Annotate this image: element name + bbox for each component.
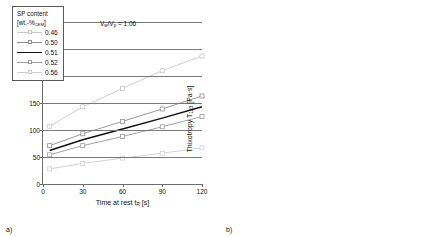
- data-point-marker: [48, 144, 52, 148]
- legend-item-0.50: 0.50: [17, 37, 58, 47]
- legend-item-0.52: 0.52: [17, 57, 58, 67]
- legend-item-0.46: 0.46: [17, 27, 58, 37]
- y-axis-tick-label: 150: [29, 100, 40, 107]
- data-point-marker: [121, 119, 125, 123]
- two-panel-figure: 0501001502002503000306090120Time at rest…: [0, 0, 447, 237]
- data-point-marker: [81, 132, 85, 136]
- legend-swatch-0.52: [17, 57, 42, 67]
- data-point-marker: [121, 134, 125, 138]
- data-point-marker: [48, 167, 52, 171]
- legend-swatch-0.46: [17, 27, 42, 37]
- legend-marker-0.56: [28, 70, 32, 74]
- legend-swatch-0.50: [17, 37, 42, 47]
- plot-area-a: 0501001502002503000306090120Time at rest…: [42, 22, 202, 185]
- legend-title-line1: SP content: [17, 10, 58, 19]
- panel-label-b: b): [226, 226, 232, 233]
- data-point-marker: [160, 107, 164, 111]
- legend-swatch-0.51: [17, 47, 42, 57]
- legend-label-0.56: 0.56: [45, 69, 58, 76]
- legend-title-line2: [wt.-%CEM]: [17, 19, 58, 28]
- series-line-0.52: [50, 117, 202, 155]
- data-point-marker: [48, 124, 52, 128]
- data-point-marker: [81, 105, 85, 109]
- legend-marker-0.50: [28, 40, 32, 44]
- x-axis-title-a: Time at rest tR [s]: [96, 199, 149, 207]
- series-line-0.56: [50, 148, 202, 169]
- data-point-marker: [81, 161, 85, 165]
- panel-b-thixotropy-chart: 0.00.20.40.60.81.01.21.41.61.82.00.00.20…: [224, 0, 447, 237]
- series-line-0.46: [50, 56, 202, 126]
- x-axis-tick-label: 30: [79, 188, 86, 195]
- legend-item-0.56: 0.56: [17, 67, 58, 77]
- legend-marker-0.52: [28, 60, 32, 64]
- legend-label-0.46: 0.46: [45, 29, 58, 36]
- data-point-marker: [160, 125, 164, 129]
- x-axis-tick-label: 120: [197, 188, 208, 195]
- legend-label-0.51: 0.51: [45, 49, 58, 56]
- y-axis-tick-label: 100: [29, 127, 40, 134]
- data-point-marker: [160, 69, 164, 73]
- y-axis-tick-label: 0: [36, 181, 40, 188]
- legend-item-0.51: 0.51: [17, 47, 58, 57]
- data-point-marker: [200, 146, 204, 150]
- data-point-marker: [81, 144, 85, 148]
- legend-label-0.50: 0.50: [45, 39, 58, 46]
- x-axis-tick-label: 90: [159, 188, 166, 195]
- x-axis-tick-label: 0: [41, 188, 45, 195]
- legend-sp-content: SP content [wt.-%CEM] 0.460.500.510.520.…: [12, 6, 64, 81]
- series-line-0.51: [50, 107, 202, 151]
- panel-label-a: a): [6, 226, 12, 233]
- data-point-marker: [121, 86, 125, 90]
- data-point-marker: [160, 151, 164, 155]
- y-axis-tick-label: 50: [33, 154, 40, 161]
- y-axis-title-b: Thixotropy T120 [Pa·s]: [194, 52, 202, 119]
- annotation-vw-vp-a: Vw/Vp = 1.06: [100, 20, 136, 28]
- legend-swatch-0.56: [17, 67, 42, 77]
- legend-label-0.52: 0.52: [45, 59, 58, 66]
- legend-marker-0.46: [28, 30, 32, 34]
- x-axis-tick-label: 60: [119, 188, 126, 195]
